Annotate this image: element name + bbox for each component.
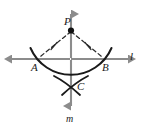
point-p-marker: [68, 27, 74, 33]
geometry-figure: P A B C l m: [0, 0, 141, 130]
tick-mark-pb: [85, 43, 91, 50]
label-point-c: C: [77, 81, 84, 92]
label-point-a: A: [31, 62, 38, 73]
tick-mark-pa: [51, 43, 57, 50]
label-point-p: P: [64, 16, 71, 27]
label-point-b: B: [102, 62, 109, 73]
label-line-l: l: [130, 51, 133, 62]
label-line-m: m: [66, 114, 73, 124]
